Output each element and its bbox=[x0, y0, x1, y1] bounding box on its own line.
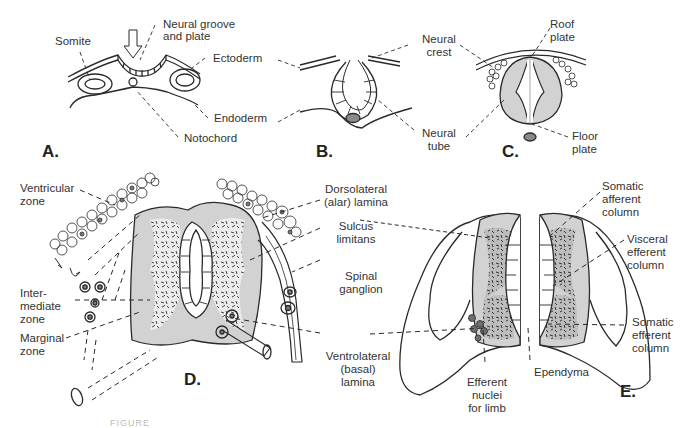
label-intermediate-zone: Inter-mediatezone bbox=[20, 287, 61, 326]
label-ventricular-line2: zone bbox=[20, 195, 45, 207]
figure-caption-fragment: FIGURE bbox=[110, 418, 150, 428]
label-efferent-nuclei-line1: Efferent bbox=[467, 376, 507, 388]
panel-label-b: B. bbox=[316, 142, 333, 162]
label-endoderm: Endoderm bbox=[214, 112, 267, 125]
label-neural-plate: and plate bbox=[163, 30, 210, 43]
label-dorsolateral-line2: (alar) lamina bbox=[324, 196, 388, 208]
label-neural-tube-line1: Neural bbox=[422, 127, 456, 139]
label-ventricular-zone: Ventricularzone bbox=[20, 182, 74, 208]
label-ventrolateral-line2: (basal) bbox=[340, 363, 375, 375]
label-sulcus-limitans: Sulcuslimitans bbox=[330, 220, 382, 246]
label-intermediate-line3: zone bbox=[20, 313, 45, 325]
label-intermediate-line2: mediate bbox=[20, 300, 61, 312]
label-intermediate-line1: Inter- bbox=[20, 287, 47, 299]
panel-e-drawing bbox=[400, 213, 650, 395]
label-somatic-aff-line3: column bbox=[602, 206, 639, 218]
panel-label-e: E. bbox=[620, 382, 636, 402]
label-visceral-line3: column bbox=[627, 259, 664, 271]
label-somatic-eff-line1: Somatic bbox=[632, 316, 674, 328]
label-sulcus-line1: Sulcus bbox=[339, 220, 374, 232]
label-efferent-nuclei-for-limb: Efferentnucleifor limb bbox=[462, 376, 512, 415]
label-roof-plate: Roofplate bbox=[550, 18, 575, 44]
label-neural-crest-line2: crest bbox=[427, 46, 452, 58]
label-efferent-nuclei-line3: for limb bbox=[468, 402, 506, 414]
label-floor-plate-line2: plate bbox=[572, 143, 597, 155]
label-somatic-eff-line2: efferent bbox=[632, 329, 671, 341]
label-floor-plate-line1: Floor bbox=[572, 130, 598, 142]
label-ventrolateral-lamina: Ventrolateral(basal)lamina bbox=[322, 350, 394, 389]
label-ventrolateral-line3: lamina bbox=[341, 376, 375, 388]
label-ventricular-line1: Ventricular bbox=[20, 182, 74, 194]
label-dorsolateral-lamina: Dorsolateral(alar) lamina bbox=[320, 183, 392, 209]
label-somatic-efferent-column: Somaticefferentcolumn bbox=[632, 316, 674, 355]
label-notochord: Notochord bbox=[184, 132, 237, 145]
label-visceral-efferent-column: Visceralefferentcolumn bbox=[627, 233, 668, 272]
label-spinal-ganglion: Spinalganglion bbox=[335, 270, 387, 296]
label-somatic-eff-line3: column bbox=[632, 342, 669, 354]
label-spinal-line1: Spinal bbox=[345, 270, 377, 282]
panel-d-drawing bbox=[50, 173, 302, 407]
label-neural-tube: Neuraltube bbox=[414, 127, 464, 153]
label-visceral-line2: efferent bbox=[627, 246, 666, 258]
panel-c-drawing bbox=[476, 50, 586, 141]
label-ependyma: Ependyma bbox=[534, 366, 589, 379]
panel-b-drawing bbox=[300, 56, 412, 128]
label-marginal-line2: zone bbox=[20, 345, 45, 357]
label-roof-plate-line1: Roof bbox=[550, 18, 574, 30]
label-somatic-aff-line1: Somatic bbox=[602, 180, 644, 192]
label-dorsolateral-line1: Dorsolateral bbox=[325, 183, 387, 195]
label-ectoderm: Ectoderm bbox=[213, 52, 262, 65]
label-marginal-line1: Marginal bbox=[20, 332, 64, 344]
label-floor-plate: Floorplate bbox=[572, 130, 598, 156]
label-somite: Somite bbox=[55, 35, 91, 48]
label-spinal-line2: ganglion bbox=[339, 283, 382, 295]
label-visceral-line1: Visceral bbox=[627, 233, 668, 245]
panel-label-c: C. bbox=[502, 142, 519, 162]
label-sulcus-line2: limitans bbox=[337, 233, 376, 245]
label-somatic-afferent-column: Somaticafferentcolumn bbox=[602, 180, 644, 219]
panel-label-d: D. bbox=[184, 370, 201, 390]
label-neural-crest: Neuralcrest bbox=[414, 33, 464, 59]
label-somatic-aff-line2: afferent bbox=[602, 193, 641, 205]
label-efferent-nuclei-line2: nuclei bbox=[472, 389, 502, 401]
label-ventrolateral-line1: Ventrolateral bbox=[326, 350, 391, 362]
label-neural-tube-line2: tube bbox=[428, 140, 450, 152]
label-marginal-zone: Marginalzone bbox=[20, 332, 64, 358]
label-roof-plate-line2: plate bbox=[550, 31, 575, 43]
panel-label-a: A. bbox=[42, 142, 59, 162]
label-neural-crest-line1: Neural bbox=[422, 33, 456, 45]
